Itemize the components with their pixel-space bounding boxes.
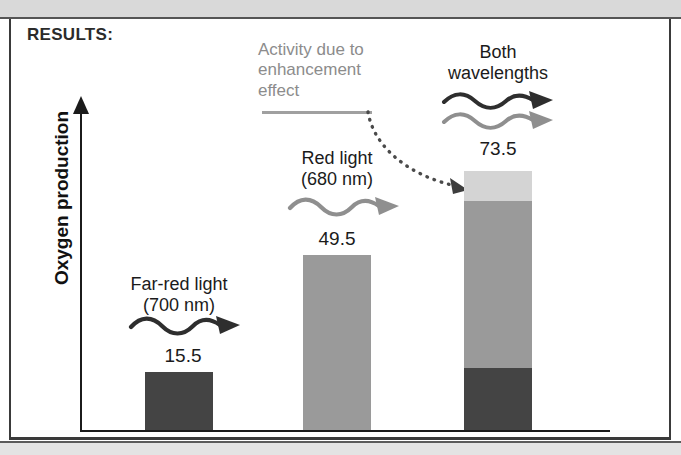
page-bottom-rule	[0, 441, 681, 443]
bar-value-red: 49.5	[277, 228, 397, 250]
wavy-arrow-gray-icon	[287, 193, 405, 219]
bar-segment-red	[303, 255, 371, 430]
page-bottom-band	[0, 441, 681, 455]
caption-far-red-light: Far-red light (700 nm)	[104, 274, 254, 316]
y-axis-line	[80, 110, 82, 431]
wavy-arrow-gray-icon	[444, 111, 553, 129]
bar-segment-red-stacked	[464, 201, 532, 368]
bar-value-both: 73.5	[438, 138, 558, 160]
bar-value-far-red: 15.5	[123, 345, 243, 367]
enhancement-annotation-line-1: Activity due to	[258, 40, 378, 60]
enhancement-annotation-underline	[262, 111, 372, 114]
enhancement-annotation-line-3: effect	[258, 81, 378, 101]
caption-both-line-1: Both	[423, 42, 573, 63]
bar-segment-far-red-stacked	[464, 368, 532, 430]
caption-red-line-2: (680 nm)	[262, 169, 412, 190]
bar-far-red-light	[145, 372, 213, 430]
bar-both-wavelengths	[464, 171, 532, 430]
bar-segment-far-red	[145, 372, 213, 430]
wavy-arrow-dark-icon	[444, 91, 553, 109]
caption-far-red-line-1: Far-red light	[104, 274, 254, 295]
wavy-arrow-pair-icon	[441, 88, 559, 134]
page-top-band	[0, 0, 681, 18]
enhancement-annotation: Activity due to enhancement effect	[258, 40, 378, 101]
caption-both-line-2: wavelengths	[423, 63, 573, 84]
figure-bottom-rule	[9, 437, 671, 439]
bar-red-light	[303, 255, 371, 430]
x-axis-line	[80, 430, 610, 432]
wavy-arrow-dark-icon	[128, 312, 246, 338]
caption-both-wavelengths: Both wavelengths	[423, 42, 573, 84]
caption-red-light: Red light (680 nm)	[262, 148, 412, 190]
y-axis-label: Oxygen production	[51, 103, 73, 293]
results-figure: RESULTS: Oxygen production Activity due …	[0, 0, 681, 455]
enhancement-annotation-line-2: enhancement	[258, 60, 378, 80]
caption-red-line-1: Red light	[262, 148, 412, 169]
page-title: RESULTS:	[27, 25, 113, 45]
bar-segment-enhancement	[464, 171, 532, 201]
